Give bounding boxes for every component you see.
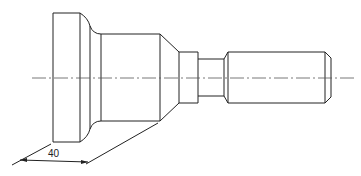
extension-line-right (86, 123, 158, 164)
dimension-label: 40 (48, 148, 59, 159)
taper-outline (160, 34, 179, 121)
body-outline (101, 34, 160, 121)
shaft-outline (224, 52, 331, 103)
flange-outline (53, 13, 80, 142)
neck-outline (198, 59, 224, 96)
step-outline (179, 52, 198, 103)
extension-line-left (12, 144, 51, 165)
dimension-line (20, 160, 88, 162)
